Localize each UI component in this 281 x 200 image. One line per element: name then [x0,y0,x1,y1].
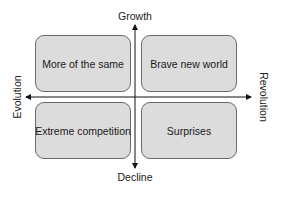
quadrant-label: Surprises [167,125,211,137]
axis-label-left: Evolution [11,75,23,118]
quadrant-label: More of the same [42,58,124,70]
axis-label-bottom: Decline [117,171,152,183]
quadrant-top-right: Brave new world [141,35,237,92]
axis-label-top: Growth [118,10,152,22]
quadrant-label: Brave new world [150,58,228,70]
quadrant-bottom-right: Surprises [141,102,237,159]
quadrant-label: Extreme competition [35,125,131,137]
axes [0,0,281,200]
quadrant-bottom-left: Extreme competition [35,102,131,159]
axis-label-right: Revolution [258,72,270,122]
quadrant-top-left: More of the same [35,35,131,92]
